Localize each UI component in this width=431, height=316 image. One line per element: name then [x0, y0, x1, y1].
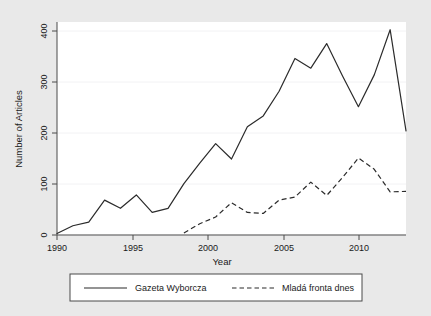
x-tick-label-1990: 1990 [47, 243, 67, 253]
x-tick-label-2005: 2005 [274, 243, 294, 253]
y-tick-label-100: 100 [39, 176, 49, 191]
x-tick-label-2010: 2010 [349, 243, 369, 253]
x-tick-label-2000: 2000 [198, 243, 218, 253]
y-tick-label-200: 200 [39, 125, 49, 140]
chart-figure: 0 100 200 300 400 Number of Articles 199… [0, 0, 431, 316]
legend-label-mlada-fronta-dnes: Mladá fronta dnes [282, 283, 355, 293]
x-tick-label-1995: 1995 [123, 243, 143, 253]
chart-legend: Gazeta Wyborcza Mladá fronta dnes [70, 274, 362, 301]
legend-label-gazeta-wyborcza: Gazeta Wyborcza [135, 283, 206, 293]
y-axis-title: Number of Articles [13, 90, 24, 168]
x-axis-title: Year [212, 256, 231, 267]
y-tick-label-0: 0 [39, 232, 49, 237]
y-tick-label-400: 400 [39, 23, 49, 38]
y-tick-label-300: 300 [39, 74, 49, 89]
